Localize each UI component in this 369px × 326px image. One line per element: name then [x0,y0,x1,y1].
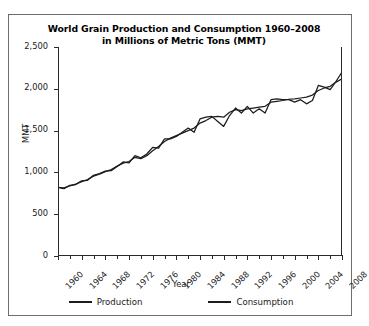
x-tick-minor [307,256,308,259]
x-tick-major [129,255,130,260]
chart-title: World Grain Production and Consumption 1… [39,23,329,47]
legend-item-production: Production [69,297,143,307]
legend-item-consumption: Consumption [208,297,293,307]
x-tick-minor [330,256,331,259]
chart-figure: World Grain Production and Consumption 1… [8,14,352,316]
legend-label-production: Production [97,297,143,307]
x-tick-major [153,255,154,260]
plot-area: 05001,0001,5002,0002,500 196019641968197… [58,47,342,256]
x-tick-major [224,255,225,260]
x-tick-major [271,255,272,260]
y-tick: 2,500 [54,47,59,48]
y-tick-label: 2,500 [24,41,48,51]
x-tick-minor [212,256,213,259]
x-tick-major [176,255,177,260]
x-tick-minor [165,256,166,259]
chart-title-line-2: in Millions of Metric Tons (MMT) [39,35,329,47]
x-tick-major [247,255,248,260]
y-tick-label: 1,000 [24,166,48,176]
x-tick-minor [141,256,142,259]
x-tick-minor [188,256,189,259]
legend-swatch-production [69,301,92,303]
x-tick-major [105,255,106,260]
x-tick-major [200,255,201,260]
y-tick-label: 1,500 [24,124,48,134]
legend-label-consumption: Consumption [236,297,293,307]
x-tick-minor [117,256,118,259]
x-tick-minor [94,256,95,259]
chart-legend: Production Consumption [9,297,353,307]
line-production [58,72,342,189]
y-tick-label: 2,000 [24,82,48,92]
y-tick: 1,000 [54,172,59,173]
chart-title-line-1: World Grain Production and Consumption 1… [48,23,321,34]
x-tick-major [318,255,319,260]
x-tick-major [295,255,296,260]
x-tick-minor [70,256,71,259]
y-tick-label: 0 [43,250,48,260]
y-tick: 500 [54,214,59,215]
y-tick: 1,500 [54,131,59,132]
x-tick-minor [236,256,237,259]
x-tick-minor [259,256,260,259]
legend-swatch-consumption [208,301,231,303]
x-axis-label: Year [9,279,353,289]
chart-lines [58,47,342,256]
x-tick-major [58,255,59,260]
x-tick-major [342,255,343,260]
line-consumption [58,79,342,188]
plot-right-spine [341,47,342,256]
y-tick: 2,000 [54,89,59,90]
y-axis-line [58,47,59,256]
x-tick-minor [283,256,284,259]
y-tick-label: 500 [32,208,48,218]
x-tick-major [82,255,83,260]
